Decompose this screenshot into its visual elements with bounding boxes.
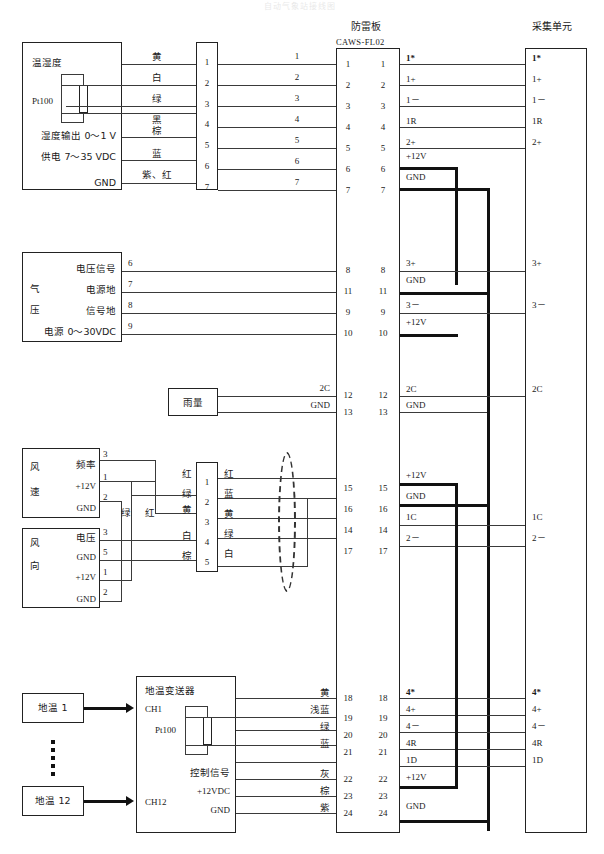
- soil-unit-2: 4+: [532, 705, 542, 714]
- soil-wire-color-4: 蓝: [320, 739, 330, 749]
- wind-left-color-2: 绿: [182, 489, 192, 499]
- pressure-cable-num-2: 7: [128, 280, 133, 289]
- wind-conn-pin-2: 2: [205, 498, 210, 507]
- soil-pt100-resistor-symbol: [203, 717, 212, 745]
- th-signal-2: 1+: [406, 75, 416, 84]
- wind-direction-terminal-2: GND: [77, 553, 97, 562]
- th-cable-num-2: 2: [295, 73, 300, 82]
- pressure-signal-3: 3－: [406, 301, 420, 310]
- pressure-signal-4: +12V: [406, 318, 427, 327]
- pressure-board-left-1: 8: [346, 266, 351, 275]
- ground-bus-pressure: [400, 292, 490, 295]
- th-pin-3: 3: [205, 100, 210, 109]
- cable-bundle-indicator: [278, 452, 296, 592]
- soil-signal-3: 4－: [406, 722, 420, 731]
- th-wire-color-6: 蓝: [152, 149, 162, 159]
- wind-link-color-1: 绿: [121, 508, 131, 518]
- wind-board-right-4: 17: [379, 547, 388, 556]
- th-board-left-5: 5: [346, 144, 351, 153]
- soil-board-left-2: 19: [344, 714, 353, 723]
- wind-speed-terminal-2: +12V: [75, 482, 96, 491]
- pressure-label-char-1: 气: [30, 284, 40, 294]
- ws-pin-3: 3: [103, 450, 108, 459]
- lightning-board-model: CAWS-FL02: [336, 38, 385, 47]
- humidity-output-label: 湿度输出 0～1 V: [41, 131, 116, 141]
- power-bus-vertical-lower: [455, 483, 458, 788]
- wind-direction-terminal-4: GND: [77, 595, 97, 604]
- soil-board-right-1: 18: [379, 694, 388, 703]
- th-pin-7: 7: [205, 183, 210, 192]
- power-bus-vertical: [455, 167, 458, 285]
- wd-pin-2: 2: [103, 588, 108, 597]
- th-board-left-3: 3: [346, 102, 351, 111]
- wind-speed-terminal-3: GND: [77, 504, 97, 513]
- pressure-board-right-3: 9: [381, 308, 386, 317]
- soil-control-line-1: 控制信号: [190, 768, 230, 778]
- soil-board-left-6: 23: [344, 792, 353, 801]
- pressure-cable-num-1: 6: [128, 259, 133, 268]
- soil-signal-2: 4+: [406, 705, 416, 714]
- rain-board-right-2: 13: [379, 408, 388, 417]
- th-board-right-4: 4: [381, 123, 386, 132]
- wind-direction-char-1: 风: [30, 538, 40, 548]
- lightning-board-title: 防雷板: [351, 22, 381, 32]
- soil-board-right-2: 19: [379, 714, 388, 723]
- th-board-left-7: 7: [346, 186, 351, 195]
- soil-wire-color-7: 紫: [320, 803, 330, 813]
- wind-direction-char-2: 向: [30, 561, 40, 571]
- th-signal-7-gnd: GND: [406, 173, 426, 182]
- rain-board-left-2: 13: [344, 408, 353, 417]
- rain-board-right-1: 12: [379, 391, 388, 400]
- th-signal-4: 1R: [406, 117, 417, 126]
- pressure-signal-2: GND: [406, 276, 426, 285]
- pressure-cable-num-3: 8: [128, 301, 133, 310]
- soil-signal-7: GND: [406, 802, 426, 811]
- power-supply-label: 供电 7～35 VDC: [41, 152, 116, 162]
- th-signal-3: 1－: [406, 96, 420, 105]
- th-signal-5: 2+: [406, 138, 416, 147]
- soil-board-left-4: 21: [344, 748, 353, 757]
- th-board-left-6: 6: [346, 165, 351, 174]
- wd-pin-5: 5: [103, 548, 108, 557]
- soil-sensor-last-label: 地温 12: [35, 796, 70, 806]
- soil-signal-4: 4R: [406, 739, 417, 748]
- th-wire-color-4: 黑: [152, 115, 162, 125]
- wind-speed-char-2: 速: [30, 487, 40, 497]
- wind-speed-terminal-1: 频率: [76, 460, 96, 470]
- soil-board-left-3: 20: [344, 731, 353, 740]
- th-cable-num-7: 7: [295, 178, 300, 187]
- soil-signal-5: 1D: [406, 756, 417, 765]
- pt100-resistor-symbol: [79, 85, 88, 113]
- th-board-right-3: 3: [381, 102, 386, 111]
- soil-unit-1: 4*: [532, 688, 541, 697]
- power-bus-wind: [400, 483, 458, 486]
- pressure-signal-1: 3+: [406, 259, 416, 268]
- power-bus-pressure: [400, 334, 458, 337]
- pressure-line-3: 信号地: [86, 306, 116, 316]
- rain-wire-label-2: GND: [311, 401, 331, 410]
- pressure-board-left-2: 11: [344, 287, 353, 296]
- wind-board-right-2: 16: [379, 505, 388, 514]
- soil-unit-3: 4－: [532, 722, 546, 731]
- wd-pin-3: 3: [103, 528, 108, 537]
- th-cable-num-3: 3: [295, 94, 300, 103]
- soil-wire-color-5: 灰: [320, 769, 330, 779]
- rain-signal-2: GND: [406, 401, 426, 410]
- wind-board-right-1: 15: [379, 484, 388, 493]
- soil-channel-first: CH1: [145, 705, 162, 714]
- th-cable-num-6: 6: [295, 157, 300, 166]
- wind-link-color-2: 红: [145, 508, 155, 518]
- gnd-label-th: GND: [94, 178, 116, 188]
- th-wire-color-2: 白: [152, 73, 162, 83]
- soil-unit-5: 1D: [532, 756, 543, 765]
- th-board-right-2: 2: [381, 81, 386, 90]
- pressure-board-right-4: 10: [379, 329, 388, 338]
- th-board-left-2: 2: [346, 81, 351, 90]
- soil-board-right-7: 24: [379, 809, 388, 818]
- th-cable-num-5: 5: [295, 136, 300, 145]
- wind-conn-pin-5: 5: [205, 558, 210, 567]
- pressure-line-2: 电源地: [86, 285, 116, 295]
- soil-wire-color-6: 棕: [320, 786, 330, 796]
- soil-unit-4: 4R: [532, 739, 543, 748]
- ground-bus-top: [400, 188, 490, 191]
